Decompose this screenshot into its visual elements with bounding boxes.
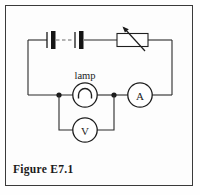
voltmeter-symbol: V xyxy=(73,118,97,142)
ammeter-symbol: A xyxy=(128,83,152,107)
lamp-symbol xyxy=(73,83,97,107)
lamp-label: lamp xyxy=(75,70,96,81)
wire-group-top xyxy=(28,40,172,95)
figure-caption: Figure E7.1 xyxy=(13,163,74,175)
rheostat-symbol xyxy=(117,27,148,52)
voltmeter-label: V xyxy=(81,125,89,137)
rheostat-box xyxy=(117,34,148,47)
lamp-circle xyxy=(73,83,97,107)
battery-symbol xyxy=(47,31,84,49)
ammeter-label: A xyxy=(136,90,144,102)
figure-container: lamp A V Figure E7.1 xyxy=(0,0,200,195)
wire-voltmeter-left xyxy=(59,95,73,130)
battery-cell1-short-plate xyxy=(51,31,56,49)
battery-cell2-short-plate xyxy=(79,31,84,49)
wire-voltmeter-right xyxy=(97,95,114,130)
